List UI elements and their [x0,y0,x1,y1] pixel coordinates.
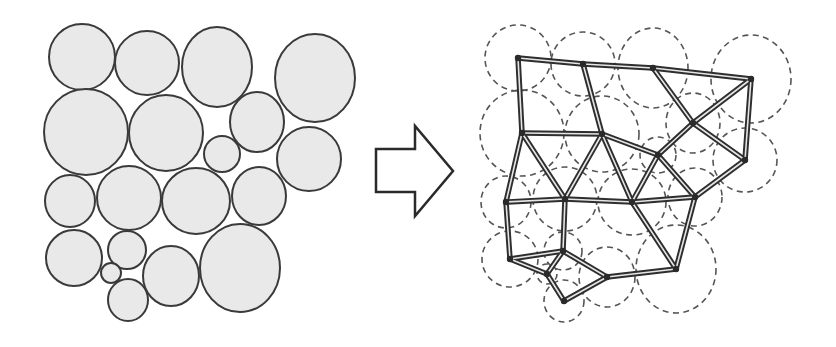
node-h [655,152,661,158]
packed-circle-d [275,34,355,122]
packed-circle-a [49,24,115,90]
node-network [480,25,791,322]
beam-core-E-F [522,133,602,134]
right-arrow-icon [376,126,453,216]
packed-circle-i [277,127,341,191]
node-r [604,274,610,280]
node-l [629,199,635,205]
node-j [503,199,509,205]
packed-circle-n [46,230,102,286]
beam-core-L-S [632,202,676,269]
packed-circle-g [230,92,284,152]
node-i [742,157,748,163]
packed-circle-m [232,167,286,225]
node-c [650,65,656,71]
beam-core-C-D [653,68,751,79]
packed-circle-l [162,168,230,234]
circle-packing [44,24,355,321]
packed-circle-h [204,136,240,172]
node-k [562,196,568,202]
packed-circle-e [44,89,128,175]
beam-core-H-L [632,155,658,202]
packed-circle-s [200,224,280,312]
node-o [560,248,566,254]
packed-circle-k [97,166,161,230]
packed-circle-p [101,263,121,283]
node-p [544,271,550,277]
packed-circle-r [143,246,199,306]
node-d [748,76,754,82]
beam-core-F-K [565,134,602,199]
node-a [515,55,521,61]
packed-circle-b [115,31,179,95]
packed-circle-q [108,279,148,321]
node-n [507,256,513,262]
node-s [673,266,679,272]
beam-core-H-M [658,155,695,197]
beam-core-R-S [607,269,676,277]
packed-circle-c [182,27,252,107]
beam-core-O-R [563,251,607,277]
packed-circle-j [45,175,95,227]
node-e [519,130,525,136]
beam-core-Q-R [564,277,607,301]
beam-core-C-G [653,68,693,123]
beam-core-M-S [676,197,695,269]
diagram-canvas [0,0,836,347]
node-q [561,298,567,304]
packed-circle-f [129,95,203,171]
node-m [692,194,698,200]
node-b [580,61,586,67]
beam-core-N-P [510,259,547,274]
diagram-svg [0,0,836,347]
node-g [690,120,696,126]
beam-core-E-J [506,133,522,202]
node-f [599,131,605,137]
beam-core-D-G [693,79,751,123]
beam-core-E-K [522,133,565,199]
